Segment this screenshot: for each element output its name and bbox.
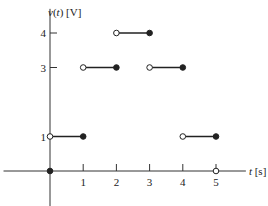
x-tick-label: 2 bbox=[114, 176, 120, 188]
labels: 12345134v(t) [V]t [s] bbox=[41, 6, 267, 188]
open-point-marker bbox=[180, 134, 186, 140]
closed-point-marker bbox=[47, 168, 53, 174]
x-tick-label: 4 bbox=[180, 176, 186, 188]
closed-point-marker bbox=[80, 134, 86, 140]
closed-point-marker bbox=[114, 65, 120, 71]
y-tick-label: 4 bbox=[41, 27, 47, 39]
closed-point-marker bbox=[213, 134, 219, 140]
x-tick-label: 5 bbox=[213, 176, 219, 188]
open-point-marker bbox=[47, 134, 53, 140]
segments bbox=[50, 33, 216, 137]
step-function-chart: 12345134v(t) [V]t [s] bbox=[0, 0, 268, 206]
y-tick-label: 3 bbox=[41, 62, 47, 74]
open-point-marker bbox=[114, 30, 120, 36]
x-axis-label: t [s] bbox=[249, 165, 266, 177]
points bbox=[47, 30, 219, 174]
x-tick-label: 3 bbox=[147, 176, 153, 188]
y-tick-label: 1 bbox=[41, 131, 47, 143]
closed-point-marker bbox=[147, 30, 153, 36]
y-axis-label: v(t) [V] bbox=[48, 6, 81, 19]
x-tick-label: 1 bbox=[80, 176, 86, 188]
open-point-marker bbox=[213, 168, 219, 174]
closed-point-marker bbox=[180, 65, 186, 71]
ticks bbox=[50, 33, 216, 171]
open-point-marker bbox=[80, 65, 86, 71]
open-point-marker bbox=[147, 65, 153, 71]
